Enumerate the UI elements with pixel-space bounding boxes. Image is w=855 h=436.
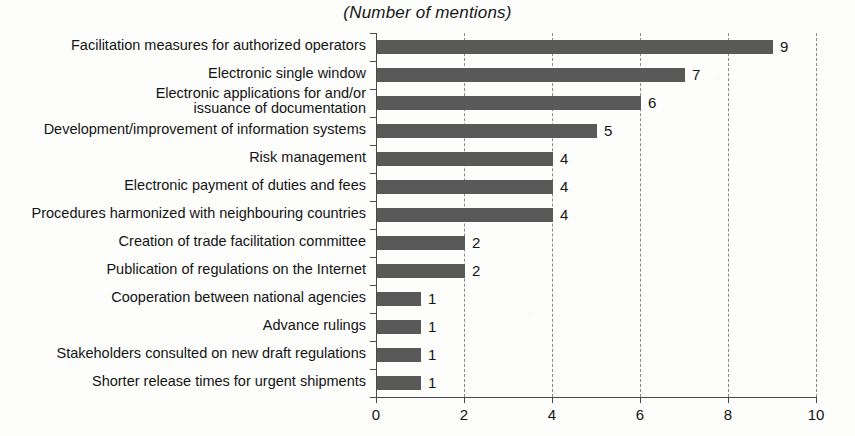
gridline-10 bbox=[816, 33, 817, 397]
bar-chart: (Number of mentions) Facilitation measur… bbox=[0, 0, 855, 436]
bar-value-label: 7 bbox=[692, 68, 700, 82]
y-tick-2 bbox=[370, 89, 376, 90]
bar bbox=[377, 68, 685, 82]
x-tick-10 bbox=[816, 397, 817, 403]
category-label: Facilitation measures for authorized ope… bbox=[0, 38, 366, 53]
bar-value-label: 9 bbox=[780, 40, 788, 54]
bar bbox=[377, 320, 421, 334]
y-tick-10 bbox=[370, 313, 376, 314]
y-tick-13 bbox=[370, 397, 376, 398]
bar-value-label: 5 bbox=[604, 124, 612, 138]
y-tick-1 bbox=[370, 61, 376, 62]
category-label: Cooperation between national agencies bbox=[0, 290, 366, 305]
bar bbox=[377, 40, 773, 54]
x-tick-4 bbox=[552, 397, 553, 403]
x-tick-label-6: 6 bbox=[636, 406, 644, 423]
bar-value-label: 4 bbox=[560, 208, 568, 222]
x-tick-2 bbox=[464, 397, 465, 403]
y-tick-0 bbox=[370, 33, 376, 34]
category-label: Creation of trade facilitation committee bbox=[0, 234, 366, 249]
category-label: Procedures harmonized with neighbouring … bbox=[0, 206, 366, 221]
category-label: Shorter release times for urgent shipmen… bbox=[0, 374, 366, 389]
bar bbox=[377, 292, 421, 306]
gridline-6 bbox=[640, 33, 641, 397]
y-tick-9 bbox=[370, 285, 376, 286]
x-tick-label-8: 8 bbox=[724, 406, 732, 423]
bar bbox=[377, 208, 553, 222]
y-tick-4 bbox=[370, 145, 376, 146]
chart-title: (Number of mentions) bbox=[0, 3, 855, 23]
y-tick-11 bbox=[370, 341, 376, 342]
bar bbox=[377, 180, 553, 194]
x-tick-label-2: 2 bbox=[460, 406, 468, 423]
category-axis-labels: Facilitation measures for authorized ope… bbox=[0, 33, 370, 397]
bar-value-label: 2 bbox=[472, 264, 480, 278]
category-label: Stakeholders consulted on new draft regu… bbox=[0, 346, 366, 361]
category-label: Advance rulings bbox=[0, 318, 366, 333]
gridline-8 bbox=[728, 33, 729, 397]
y-tick-7 bbox=[370, 229, 376, 230]
category-label: Electronic applications for and/orissuan… bbox=[0, 86, 366, 116]
x-axis-line bbox=[376, 397, 817, 398]
y-tick-6 bbox=[370, 201, 376, 202]
category-label: Electronic payment of duties and fees bbox=[0, 178, 366, 193]
bar-value-label: 4 bbox=[560, 180, 568, 194]
bar bbox=[377, 236, 465, 250]
bar-value-label: 1 bbox=[428, 320, 436, 334]
bar bbox=[377, 124, 597, 138]
y-tick-8 bbox=[370, 257, 376, 258]
bar-value-label: 4 bbox=[560, 152, 568, 166]
x-tick-label-0: 0 bbox=[372, 406, 380, 423]
bar-value-label: 2 bbox=[472, 236, 480, 250]
x-tick-6 bbox=[640, 397, 641, 403]
bar bbox=[377, 348, 421, 362]
bar-value-label: 1 bbox=[428, 292, 436, 306]
y-tick-5 bbox=[370, 173, 376, 174]
x-tick-0 bbox=[376, 397, 377, 403]
category-label: Publication of regulations on the Intern… bbox=[0, 262, 366, 277]
bar-value-label: 1 bbox=[428, 348, 436, 362]
bar bbox=[377, 376, 421, 390]
x-tick-8 bbox=[728, 397, 729, 403]
bar-value-label: 1 bbox=[428, 376, 436, 390]
x-tick-label-4: 4 bbox=[548, 406, 556, 423]
y-tick-12 bbox=[370, 369, 376, 370]
x-tick-label-10: 10 bbox=[808, 406, 825, 423]
bar bbox=[377, 152, 553, 166]
bar bbox=[377, 96, 641, 110]
category-label: Development/improvement of information s… bbox=[0, 122, 366, 137]
plot-area: 0246810 9765444221111 bbox=[376, 33, 816, 397]
category-label: Electronic single window bbox=[0, 66, 366, 81]
bar bbox=[377, 264, 465, 278]
bar-value-label: 6 bbox=[648, 96, 656, 110]
category-label: Risk management bbox=[0, 150, 366, 165]
y-tick-3 bbox=[370, 117, 376, 118]
